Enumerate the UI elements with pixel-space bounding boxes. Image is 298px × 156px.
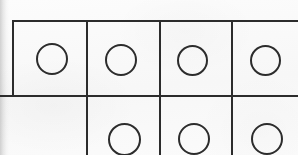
cell-r2c1[interactable]: [0, 97, 86, 155]
circle-mark-icon: [178, 123, 210, 155]
cell-r1c1[interactable]: [14, 22, 86, 95]
circle-mark-icon: [108, 123, 141, 156]
circle-mark-icon: [36, 43, 68, 75]
cell-r1c4[interactable]: [233, 22, 298, 95]
cell-r2c3[interactable]: [161, 97, 231, 155]
cell-r2c4[interactable]: [233, 97, 298, 155]
cell-r2c2[interactable]: [88, 97, 159, 155]
circle-mark-icon: [250, 45, 281, 76]
circle-mark-icon: [105, 44, 137, 76]
circle-mark-icon: [251, 123, 283, 155]
cell-r1c2[interactable]: [88, 22, 159, 95]
scanned-worksheet: [0, 0, 298, 155]
cell-r1c3[interactable]: [161, 22, 231, 95]
circle-mark-icon: [177, 45, 208, 76]
